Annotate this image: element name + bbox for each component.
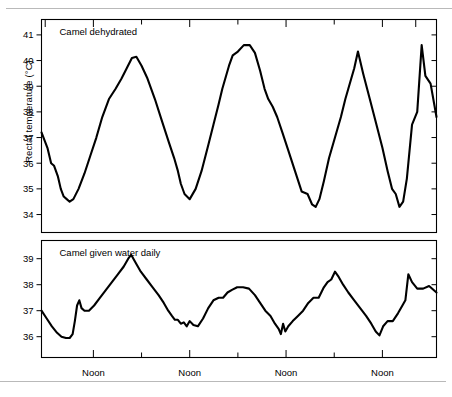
y-tick-label: 35: [23, 183, 34, 194]
panel-camel-dehydrated: 3435363738394041Camel dehydrated: [23, 20, 437, 233]
data-line-top: [42, 45, 437, 207]
y-tick-label: 34: [23, 209, 34, 220]
y-tick-label: 39: [23, 81, 34, 92]
x-tick-label-noon: Noon: [275, 367, 298, 378]
y-tick-label: 40: [23, 55, 34, 66]
figure-container: Rectal temperature (°C) 3435363738394041…: [0, 0, 452, 397]
y-tick-label: 36: [23, 158, 34, 169]
y-tick-label: 38: [23, 106, 34, 117]
x-tick-label-noon: Noon: [371, 367, 394, 378]
panel-title: Camel given water daily: [60, 247, 161, 258]
y-tick-label: 39: [23, 253, 34, 264]
x-tick-label-noon: Noon: [178, 367, 201, 378]
y-tick-label: 36: [23, 331, 34, 342]
x-tick-label-noon: Noon: [82, 367, 105, 378]
x-axis-tick-labels: NoonNoonNoonNoon: [82, 367, 394, 378]
y-tick-label: 37: [23, 305, 34, 316]
panel-title: Camel dehydrated: [60, 26, 138, 37]
data-line-bottom: [42, 255, 437, 338]
y-tick-label: 41: [23, 29, 34, 40]
panel-camel-given-water-daily: 36373839Camel given water daily: [23, 241, 437, 358]
y-tick-label: 37: [23, 132, 34, 143]
y-tick-label: 38: [23, 279, 34, 290]
chart-svg: 3435363738394041Camel dehydrated 3637383…: [0, 0, 452, 397]
